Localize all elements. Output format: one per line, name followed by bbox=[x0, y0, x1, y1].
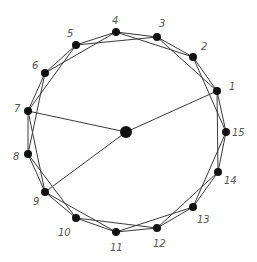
node-label-5: 5 bbox=[67, 28, 73, 39]
node-label-9: 9 bbox=[33, 196, 39, 207]
graph-svg: 123456789101112131415 bbox=[0, 0, 257, 262]
edge-4-6 bbox=[45, 32, 116, 73]
edge-hub-1 bbox=[126, 91, 217, 132]
edge-14-1 bbox=[217, 91, 218, 172]
node-15 bbox=[222, 128, 230, 136]
node-7 bbox=[24, 107, 32, 115]
edge-hub-9 bbox=[45, 132, 126, 192]
edge-8-10 bbox=[28, 154, 76, 218]
node-label-13: 13 bbox=[197, 214, 210, 225]
edge-9-10 bbox=[45, 192, 76, 218]
node-4 bbox=[112, 28, 120, 36]
node-label-4: 4 bbox=[112, 15, 118, 26]
node-8 bbox=[24, 150, 32, 158]
node-label-1: 1 bbox=[229, 81, 235, 92]
node-10 bbox=[72, 214, 80, 222]
node-label-3: 3 bbox=[159, 18, 165, 29]
node-label-11: 11 bbox=[110, 242, 123, 253]
edge-15-1 bbox=[217, 91, 226, 132]
node-label-15: 15 bbox=[232, 127, 245, 138]
edge-14-15 bbox=[218, 132, 226, 172]
node-5 bbox=[72, 41, 80, 49]
node-13 bbox=[189, 203, 197, 211]
node-label-2: 2 bbox=[201, 41, 207, 52]
edge-5-6 bbox=[45, 45, 76, 73]
node-14 bbox=[214, 168, 222, 176]
edge-9-11 bbox=[45, 192, 116, 232]
node-12 bbox=[153, 224, 161, 232]
nodes-layer bbox=[24, 28, 230, 236]
node-label-7: 7 bbox=[14, 103, 21, 114]
node-label-14: 14 bbox=[224, 175, 237, 186]
node-1 bbox=[213, 87, 221, 95]
node-label-8: 8 bbox=[13, 151, 19, 162]
edge-6-7 bbox=[28, 73, 45, 111]
node-label-10: 10 bbox=[58, 227, 71, 238]
edge-1-3 bbox=[157, 37, 217, 91]
node-3 bbox=[153, 33, 161, 41]
edge-1-2 bbox=[193, 57, 217, 91]
edge-13-14 bbox=[193, 172, 218, 207]
edge-5-7 bbox=[28, 45, 76, 111]
node-6 bbox=[41, 69, 49, 77]
node-label-12: 12 bbox=[153, 238, 166, 249]
node-label-6: 6 bbox=[32, 60, 38, 71]
edge-hub-7 bbox=[28, 111, 126, 132]
node-2 bbox=[189, 53, 197, 61]
hub-node bbox=[120, 126, 132, 138]
edge-12-13 bbox=[157, 207, 193, 228]
graph-diagram: 123456789101112131415 bbox=[0, 0, 257, 262]
node-11 bbox=[112, 228, 120, 236]
node-9 bbox=[41, 188, 49, 196]
